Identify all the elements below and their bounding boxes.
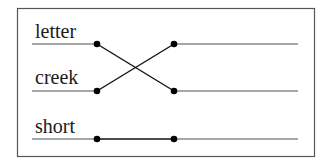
word-letter: letter [35,20,76,42]
dot-left-2[interactable] [94,88,101,95]
dot-left-1[interactable] [94,41,101,48]
dot-right-1[interactable] [171,41,178,48]
dot-right-2[interactable] [171,88,178,95]
matching-diagram: letter creek short [0,0,330,162]
word-creek: creek [35,66,78,88]
word-short: short [35,115,75,137]
dot-left-3[interactable] [94,136,101,143]
dot-right-3[interactable] [171,136,178,143]
